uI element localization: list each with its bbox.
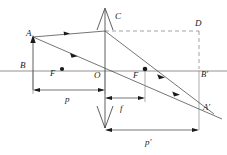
label-object-tip-A: A	[25, 28, 32, 38]
label-lens-top-C: C	[115, 11, 122, 21]
dim-p-arrow-right-icon	[98, 88, 105, 92]
ray-refracted-through-focus	[105, 31, 214, 114]
label-dim-f: f	[120, 103, 124, 113]
ray-diagram-canvas: A B F O F C D B' A' p f p'	[0, 0, 227, 155]
label-image-base-Bprime: B'	[201, 69, 208, 79]
label-corner-D: D	[194, 18, 202, 28]
ray-chief-through-center	[33, 37, 222, 119]
dim-pprime-arrow-right-icon	[192, 128, 199, 132]
label-dim-pprime: p'	[144, 137, 153, 147]
dim-p-arrow-left-icon	[33, 88, 40, 92]
ray-direction-arrow-4-icon	[172, 92, 180, 97]
ray-direction-arrow-1-icon	[64, 32, 70, 36]
label-focal-right-F: F	[132, 70, 139, 80]
dim-pprime-arrow-left-icon	[105, 128, 112, 132]
label-dim-p: p	[64, 94, 70, 104]
ray-direction-arrow-3-icon	[157, 74, 165, 79]
dim-f-arrow-left-icon	[105, 96, 112, 100]
ray-direction-arrow-2-icon	[70, 53, 78, 58]
label-focal-left-F: F	[49, 68, 56, 78]
ray-diagram-figure: A B F O F C D B' A' p f p'	[0, 0, 227, 155]
focal-point-right-dot	[143, 67, 148, 72]
label-center-O: O	[94, 70, 101, 80]
label-image-tip-Aprime: A'	[202, 102, 210, 112]
label-object-base-B: B	[20, 60, 26, 70]
ray-parallel-incident	[33, 31, 105, 37]
focal-point-left-dot	[60, 67, 64, 71]
dim-f-arrow-right-icon	[138, 96, 145, 100]
